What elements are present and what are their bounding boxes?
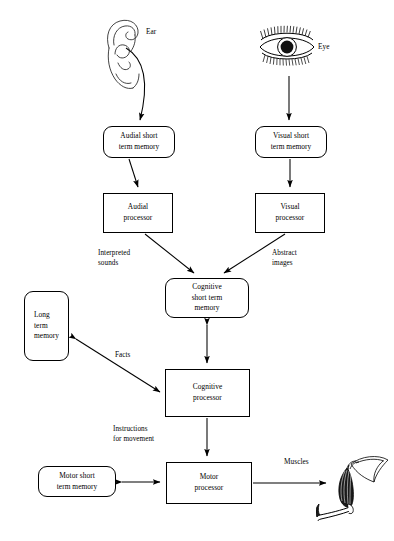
edge-label-line: Interpreted <box>98 248 130 258</box>
edge-label-line: Abstract <box>272 248 297 258</box>
node-label-line: Motor <box>200 472 219 483</box>
edge-label-facts: Facts <box>115 350 130 360</box>
edge-label-line: sounds <box>98 258 130 268</box>
node-label-line: Long <box>34 310 50 321</box>
eye-illustration <box>252 22 322 74</box>
edge-label-line: Instructions <box>113 424 154 434</box>
node-label-line: Cognitive <box>193 382 223 393</box>
node-audial-processor[interactable]: Audial processor <box>103 193 173 233</box>
muscles-illustration <box>316 452 394 528</box>
node-cognitive-processor[interactable]: Cognitive processor <box>165 369 250 417</box>
eye-label: Eye <box>318 42 330 51</box>
node-label-line: Audial <box>128 202 148 213</box>
node-long-term-memory[interactable]: Long term memory <box>24 291 69 361</box>
node-label-line: Cognitive <box>192 282 222 293</box>
node-label-line: term memory <box>57 482 98 493</box>
node-visual-processor[interactable]: Visual processor <box>255 193 325 233</box>
edge-label-line: images <box>272 258 297 268</box>
node-visual-short-term-memory[interactable]: Visual short term memory <box>255 126 327 158</box>
node-audial-short-term-memory[interactable]: Audial short term memory <box>103 126 175 158</box>
edge-label-interpreted-sounds: Interpreted sounds <box>98 248 130 269</box>
node-label-line: memory <box>195 303 220 314</box>
node-label-line: memory <box>34 331 59 342</box>
muscles-label: Muscles <box>284 457 309 466</box>
edge-audial-stm-to-audial-proc <box>129 159 138 187</box>
edge-label-instructions-for-movement: Instructions for movement <box>113 424 154 445</box>
node-motor-short-term-memory[interactable]: Motor short term memory <box>38 466 116 497</box>
edge-long-term-cognitive-proc <box>76 339 160 392</box>
node-label-line: processor <box>124 213 153 224</box>
ear-label: Ear <box>146 27 156 36</box>
node-label-line: processor <box>193 393 222 404</box>
node-motor-processor[interactable]: Motor processor <box>166 462 252 504</box>
node-label-line: term memory <box>119 142 160 153</box>
node-label-line: Audial short <box>120 131 157 142</box>
node-label-line: processor <box>276 213 305 224</box>
node-label-line: Visual <box>280 202 299 213</box>
node-cognitive-short-term-memory[interactable]: Cognitive short term memory <box>165 278 249 318</box>
node-label-line: term <box>34 321 48 332</box>
node-label-line: processor <box>195 483 224 494</box>
edge-label-line: Facts <box>115 350 130 360</box>
edge-audial-proc-to-cognitive-stm <box>145 234 194 273</box>
edge-label-line: for movement <box>113 434 154 444</box>
node-label-line: Visual short <box>273 131 309 142</box>
node-label-line: short term <box>192 293 223 304</box>
edge-label-abstract-images: Abstract images <box>272 248 297 269</box>
diagram-canvas: Ear Eye Muscles Interpreted sounds Abstr… <box>0 0 394 541</box>
node-label-line: term memory <box>271 142 312 153</box>
node-label-line: Motor short <box>59 471 95 482</box>
